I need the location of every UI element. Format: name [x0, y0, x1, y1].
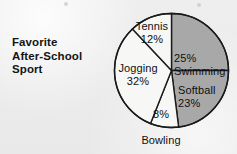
chart-title-line-1: Favorite	[12, 36, 112, 50]
slice-label-bowling-name-wrap: Bowling	[133, 134, 189, 147]
scan-artifact-speck	[197, 3, 201, 7]
slice-label-softball-name: Softball	[178, 84, 226, 97]
chart-title-line-2: After-School	[12, 50, 112, 64]
slice-label-softball-pct: 23%	[178, 97, 226, 110]
slice-label-bowling-name: Bowling	[133, 134, 189, 147]
slice-label-bowling-pct: 8%	[146, 108, 176, 121]
chart-title: Favorite After-School Sport	[12, 36, 112, 77]
slice-label-softball: Softball 23%	[178, 84, 226, 109]
chart-title-line-3: Sport	[12, 63, 112, 77]
pie-chart-screenshot: Favorite After-School Sport Tennis 12% 2…	[0, 0, 237, 154]
slice-label-tennis-name: Tennis	[131, 20, 173, 33]
slice-label-bowling-pct-wrap: 8%	[146, 108, 176, 121]
slice-label-swimming-name: Swimming	[174, 65, 232, 78]
slice-label-tennis: Tennis 12%	[131, 20, 173, 45]
slice-label-tennis-pct: 12%	[131, 33, 173, 46]
scan-artifact-speck	[64, 2, 68, 6]
slice-label-jogging-name: Jogging	[113, 62, 163, 75]
slice-label-jogging-pct: 32%	[113, 75, 163, 88]
slice-label-swimming-pct: 25%	[174, 52, 232, 65]
slice-label-jogging: Jogging 32%	[113, 62, 163, 87]
slice-label-swimming: 25% Swimming	[174, 52, 232, 77]
